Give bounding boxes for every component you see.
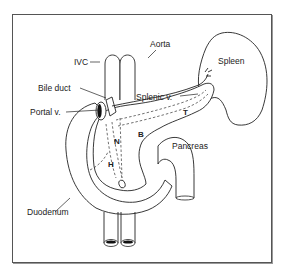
spleen-shape — [198, 32, 267, 125]
label-head: H — [108, 160, 114, 169]
aorta-lumen — [123, 240, 133, 243]
ivc-lumen — [106, 240, 116, 243]
anatomy-figure: IVC Aorta Spleen Bile duct Splenic v. Po… — [0, 0, 284, 275]
label-tail: T — [183, 108, 188, 117]
label-aorta: Aorta — [150, 39, 171, 49]
label-bile-duct: Bile duct — [38, 83, 71, 93]
aorta-vessel — [120, 55, 135, 100]
portal-vein-lumen — [97, 104, 101, 118]
label-ivc: IVC — [74, 57, 88, 67]
label-pancreas: Pancreas — [172, 141, 208, 151]
ivc-vessel — [105, 55, 120, 100]
label-duodenum: Duodenum — [27, 207, 69, 217]
aorta-lower-vessel — [121, 212, 135, 243]
bile-duct-leader — [80, 88, 106, 98]
aorta-leader — [148, 50, 156, 58]
label-splenic-v: Splenic v. — [136, 92, 172, 102]
ivc-lower-vessel — [104, 212, 118, 243]
label-body: B — [138, 130, 144, 139]
label-portal-v: Portal v. — [30, 107, 61, 117]
jejunum-opening — [176, 196, 194, 200]
label-spleen: Spleen — [218, 56, 245, 66]
label-neck: N — [114, 137, 120, 146]
pancreas-diagram: IVC Aorta Spleen Bile duct Splenic v. Po… — [0, 0, 284, 275]
